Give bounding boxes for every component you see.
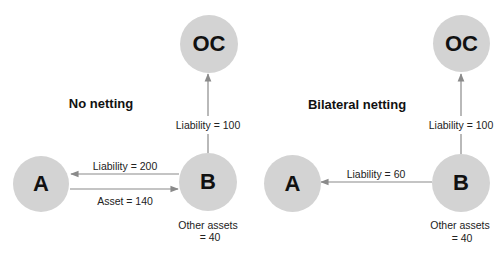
node-b-label: B bbox=[453, 170, 469, 196]
panel-title-no-netting: No netting bbox=[69, 96, 133, 111]
edge-label-b-to-a-left: Liability = 200 bbox=[93, 160, 158, 172]
node-a-right: A bbox=[264, 155, 321, 212]
netting-diagram: No netting OC A B Liability = 100 Liabil… bbox=[0, 0, 504, 255]
other-assets-left-line1: Other assets bbox=[178, 219, 238, 231]
node-oc-left: OC bbox=[180, 15, 238, 73]
edge-label-b-to-oc-right: Liability = 100 bbox=[429, 119, 494, 131]
node-oc-label: OC bbox=[193, 31, 226, 57]
edge-label-b-to-a-right: Liability = 60 bbox=[347, 168, 406, 180]
node-a-label: A bbox=[285, 171, 301, 197]
node-b-label: B bbox=[200, 169, 216, 195]
edge-label-a-to-b-left: Asset = 140 bbox=[97, 195, 153, 207]
node-b-right: B bbox=[432, 154, 490, 212]
node-a-left: A bbox=[13, 156, 69, 212]
node-b-left: B bbox=[179, 153, 237, 211]
other-assets-right-line1: Other assets bbox=[430, 219, 490, 231]
edge-label-b-to-oc-left: Liability = 100 bbox=[176, 119, 241, 131]
panel-title-bilateral-netting: Bilateral netting bbox=[308, 97, 406, 112]
node-a-label: A bbox=[33, 171, 49, 197]
node-oc-right: OC bbox=[433, 15, 490, 72]
other-assets-left-line2: = 40 bbox=[200, 231, 221, 243]
other-assets-right-line2: = 40 bbox=[452, 232, 473, 244]
node-oc-label: OC bbox=[445, 31, 478, 57]
